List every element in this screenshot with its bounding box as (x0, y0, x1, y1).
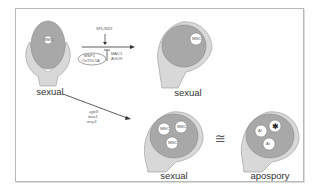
label-mmc-3b: MMC (177, 125, 187, 130)
caption-sexual-2: sexual (168, 87, 208, 98)
label-ostdl1a: OsTDL1A (82, 59, 100, 64)
ovule-sexual-2 (158, 22, 212, 88)
caption-sexual-1: sexual (30, 86, 70, 97)
ovule-apospory: ✱ (241, 112, 299, 172)
caption-sexual-3: sexual (154, 170, 194, 181)
label-ago9: AGO9 (111, 57, 122, 62)
svg-text:✱: ✱ (272, 122, 279, 131)
label-msp1-mutant: msp1 (87, 120, 97, 125)
caption-apospory: apospory (245, 170, 295, 181)
label-ai-2: AI (266, 142, 270, 147)
ovule-sexual-1 (26, 21, 70, 86)
label-mmc-3c: MMC (168, 141, 178, 146)
label-ai-1: AI (258, 129, 262, 134)
diagram-canvas: ≅ ✱ (0, 0, 313, 196)
label-mmc-2: MMC (192, 37, 202, 42)
label-spl-nzz: SPL/NZZ (96, 27, 112, 32)
svg-text:≅: ≅ (215, 131, 226, 146)
label-mmc-1: MMC (44, 38, 54, 43)
label-mmc-3a: MMC (160, 127, 170, 132)
